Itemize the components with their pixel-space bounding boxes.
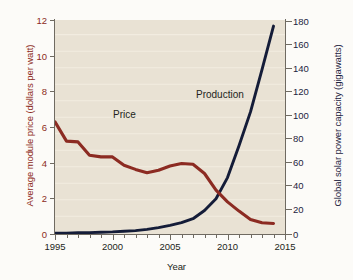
left-tick-label-0: 0 xyxy=(21,229,47,240)
x-tick-2002 xyxy=(136,235,137,238)
x-tick-2000 xyxy=(113,235,114,240)
right-tick-label-20: 20 xyxy=(293,204,321,215)
x-tick-label-2010: 2010 xyxy=(208,241,248,252)
x-tick-1996 xyxy=(67,235,68,238)
right-tick-60 xyxy=(286,162,292,163)
right-tick-label-120: 120 xyxy=(293,86,321,97)
x-tick-2010 xyxy=(228,235,229,240)
right-tick-140 xyxy=(286,68,292,69)
right-tick-label-0: 0 xyxy=(293,229,321,240)
plot-area xyxy=(55,20,285,234)
left-tick-10 xyxy=(50,56,56,57)
price-series-label: Price xyxy=(113,109,136,120)
right-tick-label-40: 40 xyxy=(293,180,321,191)
left-tick-8 xyxy=(50,91,56,92)
x-tick-label-2005: 2005 xyxy=(150,241,190,252)
x-tick-2015 xyxy=(285,235,286,240)
x-tick-2006 xyxy=(182,235,183,238)
production-line xyxy=(55,26,274,233)
right-tick-100 xyxy=(286,115,292,116)
right-axis-spine xyxy=(285,19,286,235)
left-tick-12 xyxy=(50,20,56,21)
x-tick-2007 xyxy=(193,235,194,238)
right-tick-160 xyxy=(286,44,292,45)
left-tick-2 xyxy=(50,198,56,199)
x-tick-2013 xyxy=(262,235,263,238)
x-tick-2005 xyxy=(170,235,171,240)
gridlines xyxy=(55,35,285,217)
x-axis-title: Year xyxy=(0,261,353,272)
right-tick-label-80: 80 xyxy=(293,133,321,144)
x-tick-2008 xyxy=(205,235,206,238)
x-tick-1998 xyxy=(90,235,91,238)
right-axis-title: Global solar power capacity (gigawatts) xyxy=(332,36,343,216)
x-tick-1997 xyxy=(78,235,79,238)
x-tick-2009 xyxy=(216,235,217,238)
plot-svg xyxy=(55,20,285,234)
right-tick-40 xyxy=(286,185,292,186)
right-tick-label-180: 180 xyxy=(293,16,321,27)
right-tick-label-100: 100 xyxy=(293,110,321,121)
x-tick-label-1995: 1995 xyxy=(35,241,75,252)
left-tick-6 xyxy=(50,127,56,128)
right-tick-20 xyxy=(286,209,292,210)
solar-price-production-chart: 12 10 8 6 4 2 0 180 160 140 120 100 80 6… xyxy=(0,0,353,280)
x-tick-label-2000: 2000 xyxy=(93,241,133,252)
right-tick-120 xyxy=(286,91,292,92)
x-tick-2014 xyxy=(274,235,275,238)
x-tick-2011 xyxy=(239,235,240,238)
right-tick-label-140: 140 xyxy=(293,63,321,74)
x-tick-1995 xyxy=(55,235,56,240)
x-tick-1999 xyxy=(101,235,102,238)
right-tick-label-160: 160 xyxy=(293,39,321,50)
x-tick-2001 xyxy=(124,235,125,238)
right-tick-180 xyxy=(286,21,292,22)
right-tick-0 xyxy=(286,234,292,235)
x-tick-2004 xyxy=(159,235,160,238)
right-tick-80 xyxy=(286,138,292,139)
left-axis-title: Average module price (dollars per watt) xyxy=(24,41,35,211)
x-tick-label-2015: 2015 xyxy=(265,241,305,252)
x-tick-2003 xyxy=(147,235,148,238)
x-tick-2012 xyxy=(251,235,252,238)
left-tick-label-12: 12 xyxy=(21,15,47,26)
right-tick-label-60: 60 xyxy=(293,157,321,168)
left-tick-4 xyxy=(50,163,56,164)
production-series-label: Production xyxy=(196,89,244,100)
